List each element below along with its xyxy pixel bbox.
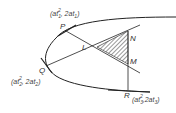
diagram-canvas: P Q L N M R (at12, 2at1) (at22, 2at2) (a… [0,0,176,113]
coord-q: (at22, 2at2) [11,75,40,87]
label-l: L [82,43,86,52]
label-r: R [124,91,130,100]
parabola-diagram: P Q L N M R (at12, 2at1) (at22, 2at2) (a… [0,0,176,113]
shaded-triangle-lmn [97,31,128,64]
coord-p: (at12, 2at1) [50,7,79,19]
coord-r: (at32,2at3) [132,93,160,105]
label-m: M [130,57,137,66]
label-q: Q [39,66,45,75]
label-n: N [130,34,136,43]
label-p: P [60,22,66,31]
